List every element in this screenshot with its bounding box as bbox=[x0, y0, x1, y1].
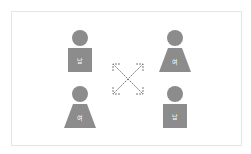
figure-label: 남 bbox=[172, 112, 178, 121]
male-body-icon: 남 bbox=[68, 48, 92, 72]
head-icon bbox=[167, 86, 183, 102]
male-body-icon: 남 bbox=[163, 104, 187, 128]
head-icon bbox=[72, 86, 88, 102]
head-icon bbox=[72, 30, 88, 46]
figure-label: 여 bbox=[159, 57, 191, 66]
figure-label: 여 bbox=[64, 113, 96, 122]
female-body-icon: 여 bbox=[64, 104, 96, 128]
crossed-double-arrows-icon bbox=[111, 62, 145, 96]
figure-label: 남 bbox=[77, 56, 83, 65]
head-icon bbox=[167, 30, 183, 46]
female-body-icon: 여 bbox=[159, 48, 191, 72]
